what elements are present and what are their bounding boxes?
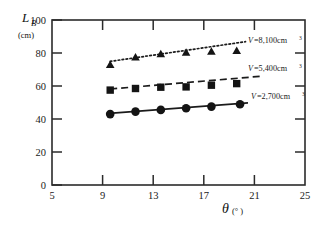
x-tick-label-17: 17 — [199, 190, 210, 201]
x-tick-label-13: 13 — [148, 190, 159, 201]
x-tick-label-21: 21 — [249, 190, 260, 201]
y-tick-label-60: 60 — [36, 81, 47, 92]
data-point-circle-2 — [131, 107, 140, 116]
data-point-circle-4 — [182, 104, 191, 113]
y-tick-label-80: 80 — [36, 48, 47, 59]
data-point-circle-1 — [106, 110, 115, 119]
series-2700-fitline — [106, 103, 248, 114]
y-tick-label-40: 40 — [36, 114, 47, 125]
y-axis-title-sub: B — [31, 18, 36, 28]
legend-item-8100: V =8,100cm 3 — [248, 35, 302, 46]
data-point-square-3 — [157, 84, 164, 91]
data-point-square-1 — [107, 86, 114, 93]
x-axis-title-unit: (° ) — [232, 206, 243, 216]
series-8100 — [106, 42, 246, 68]
data-point-triangle-6 — [232, 47, 241, 55]
y-tick-label-0: 0 — [41, 180, 46, 191]
data-point-triangle-5 — [207, 47, 216, 55]
x-tick-label-5: 5 — [49, 190, 54, 201]
y-axis-ticks — [52, 20, 62, 185]
x-tick-label-25: 25 — [300, 190, 311, 201]
y-tick-label-20: 20 — [36, 147, 47, 158]
x-axis-ticks-top — [103, 20, 255, 30]
data-point-square-5 — [208, 82, 215, 89]
data-point-square-6 — [233, 80, 240, 87]
data-point-square-2 — [132, 85, 139, 92]
data-point-triangle-1 — [106, 61, 115, 69]
data-point-square-4 — [182, 83, 189, 90]
legend-label-5400-exp: 3 — [299, 63, 302, 69]
x-axis-ticks — [103, 175, 255, 185]
legend-label-2700-exp: 3 — [302, 91, 305, 97]
legend-label-2700-eq: =2,700cm — [257, 92, 291, 101]
legend-label-8100-eq: =8,100cm — [254, 36, 288, 45]
legend-item-5400: V =5,400cm 3 — [248, 63, 302, 74]
series-2700 — [106, 100, 248, 119]
legend-label-5400-eq: =5,400cm — [254, 64, 288, 73]
series-5400 — [107, 76, 264, 94]
data-point-circle-5 — [207, 102, 216, 111]
x-tick-label-9: 9 — [100, 190, 105, 201]
legend-item-2700: V =2,700cm 3 — [251, 91, 305, 102]
x-axis-title-main: θ — [222, 201, 229, 216]
data-point-circle-3 — [157, 106, 166, 115]
series-8100-fitline — [110, 42, 245, 62]
x-axis-title: θ (° ) — [222, 201, 243, 216]
legend-label-8100-exp: 3 — [299, 35, 302, 41]
y-axis-title-main: L — [21, 10, 29, 25]
y-axis-title-unit: (cm) — [18, 30, 34, 40]
data-point-circle-6 — [236, 100, 245, 109]
chart-figure: 0 20 40 60 80 100 5 9 13 17 21 25 L B (c… — [0, 0, 327, 228]
legend: V =8,100cm 3 V =5,400cm 3 V =2,700cm 3 — [248, 35, 305, 102]
